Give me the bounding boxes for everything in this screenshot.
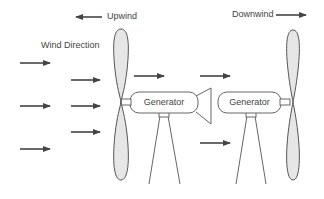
wind-direction-label: Wind Direction <box>41 41 100 50</box>
upwind-label: Upwind <box>107 12 137 21</box>
downwind-label: Downwind <box>232 10 274 19</box>
upwind-generator-label: Generator <box>130 98 198 107</box>
downwind-turbine <box>218 30 299 184</box>
downwind-generator-label: Generator <box>218 98 281 107</box>
